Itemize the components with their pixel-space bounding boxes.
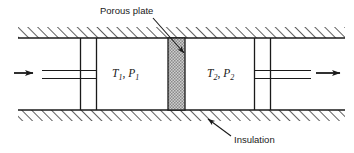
downstream-pressure-subscript: 2 [230, 73, 234, 82]
inlet-flow [14, 71, 96, 79]
insulation-label: Insulation [234, 134, 275, 145]
downstream-separator: , [217, 67, 220, 80]
upstream-pressure-symbol: P [127, 67, 135, 79]
outlet-flow [254, 71, 340, 79]
throttling-device-diagram: Porous plate Insulation T1,P1 T2,P2 [0, 0, 354, 153]
figure-canvas: Porous plate Insulation T1,P1 T2,P2 [0, 0, 354, 153]
downstream-state-label: T2,P2 [207, 67, 234, 82]
upstream-separator: , [122, 67, 125, 80]
upstream-pressure-subscript: 1 [135, 73, 139, 82]
porous-plate-label: Porous plate [100, 5, 153, 16]
porous-plate [168, 38, 185, 110]
upstream-state-label: T1,P1 [112, 67, 139, 82]
insulation-wall-top [18, 27, 345, 38]
insulation-wall-bottom [18, 110, 345, 121]
downstream-pressure-symbol: P [222, 67, 230, 79]
insulation-leader-line [208, 119, 231, 136]
